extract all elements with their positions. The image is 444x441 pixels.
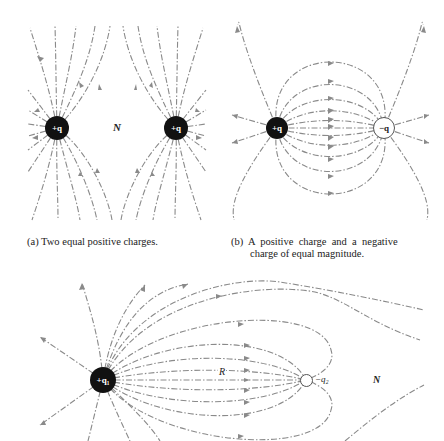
charge-label: +q — [272, 123, 282, 133]
panel-c-separation-label: R — [218, 366, 226, 377]
panel-a-neutral-point: N — [113, 121, 121, 133]
panel-b-caption: (b) A positive charge and a negative cha… — [231, 236, 441, 260]
panel-b-caption-line1: (b) A positive charge and a negative — [231, 236, 441, 248]
panel-b-field-lines — [232, 22, 429, 220]
panel-c-neutral-point: N — [373, 374, 380, 385]
panel-b-charge-negative: −q — [373, 117, 395, 139]
panel-a-charge-right: +q — [164, 116, 188, 140]
panel-b-caption-line2: charge of equal magnitude. — [231, 248, 441, 260]
panel-a-charge-left: +q — [45, 116, 69, 140]
panel-a-caption: (a) Two equal positive charges. — [27, 236, 158, 248]
panel-c-charge-q2-label: −q₂ — [315, 374, 329, 384]
charge-label: −q — [379, 123, 389, 133]
charge-label: +q — [52, 123, 62, 133]
charge-label: +q₁ — [97, 375, 110, 385]
panel-c-field-lines — [40, 281, 424, 441]
panel-b-charge-positive: +q — [266, 117, 288, 139]
panel-c-charge-q1: +q₁ — [90, 367, 116, 393]
panel-c-charge-q2 — [300, 374, 313, 387]
charge-label: +q — [171, 123, 181, 133]
